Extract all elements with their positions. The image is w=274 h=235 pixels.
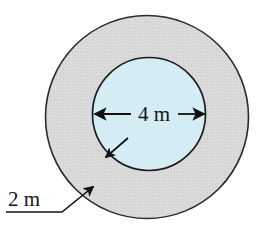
ring-width-label: 2 m [8, 187, 40, 211]
annulus-figure: 4 m 2 m [0, 0, 274, 235]
diameter-label: 4 m [138, 102, 170, 126]
annulus-diagram-canvas: 4 m 2 m [0, 0, 274, 235]
